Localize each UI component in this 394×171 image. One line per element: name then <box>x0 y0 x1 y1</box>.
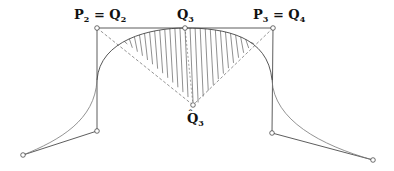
hatch-line <box>195 28 198 102</box>
hatch-line <box>215 30 218 79</box>
label-q3: Q3 <box>177 7 194 24</box>
hatch-line <box>180 28 183 92</box>
dashed-line-right <box>193 28 273 105</box>
hatch-line <box>225 32 228 68</box>
hatch-line <box>241 37 244 53</box>
point-p2-q2 <box>95 26 100 31</box>
hatch-line <box>165 29 168 78</box>
point-right-end <box>371 158 376 163</box>
hatch-line <box>185 28 188 97</box>
hatch-line <box>150 32 153 64</box>
point-q3-hat <box>191 103 196 108</box>
hatch-line <box>220 31 223 74</box>
hatch-line <box>134 37 137 52</box>
point-q3 <box>183 26 188 31</box>
point-p3-q4 <box>271 26 276 31</box>
hatch-line <box>155 31 158 69</box>
point-right-control <box>270 131 275 136</box>
bezier-curve-left <box>23 80 97 155</box>
hatch-line <box>139 35 142 56</box>
hatch-line <box>236 35 239 58</box>
bezier-curve-right <box>272 80 373 160</box>
hatch-line <box>145 33 148 60</box>
hatch-line <box>231 33 234 63</box>
hatch-line <box>160 30 163 73</box>
hatch-line <box>200 28 203 96</box>
hatch-line <box>190 28 193 102</box>
point-left-control <box>95 129 100 134</box>
hatch-line <box>170 29 173 83</box>
point-left-end <box>21 153 26 158</box>
label-p3-q4: P3 = Q4 <box>253 7 306 24</box>
hatch-line <box>124 41 127 44</box>
hatch-line <box>175 28 178 87</box>
control-polygon-left <box>23 28 97 155</box>
hatch-line <box>205 29 208 91</box>
hatch-line <box>210 29 213 84</box>
label-p2-q2: P2 = Q2 <box>74 7 126 24</box>
label-q3-hat: Q3 <box>187 111 204 128</box>
control-polygon-right <box>272 28 373 160</box>
bezier-degree-elevation-diagram: P2 = Q2 Q3 P3 = Q4 ˆ Q3 <box>0 0 394 171</box>
hatch-line <box>129 39 132 48</box>
